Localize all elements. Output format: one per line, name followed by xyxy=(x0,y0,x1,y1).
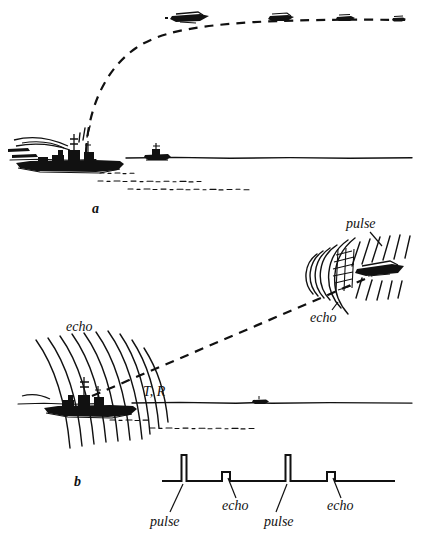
echo-wavefronts-aircraft xyxy=(306,238,355,314)
sea-texture-a xyxy=(98,173,249,190)
panel-b: echo pulse echo T, R b xyxy=(18,216,412,489)
radar-figure: a xyxy=(0,0,422,541)
distant-ship-a xyxy=(144,143,171,160)
shell-trajectory-a xyxy=(86,20,412,152)
panel-label-b: b xyxy=(74,474,81,489)
pulse-label-aircraft: pulse xyxy=(345,216,376,231)
distant-ship-b xyxy=(252,396,269,404)
trace-labels: pulseechopulseecho xyxy=(149,498,353,529)
warship-a xyxy=(8,126,124,173)
leader-pulse-0 xyxy=(170,484,183,512)
transmitter-receiver-label: T, R xyxy=(143,384,166,399)
trace-label-echo-3: echo xyxy=(327,498,353,513)
radar-time-base-trace: pulseechopulseecho xyxy=(149,455,395,529)
echo-label-aircraft: echo xyxy=(310,310,336,325)
trace-leader-lines xyxy=(170,478,341,512)
trace-label-pulse-2: pulse xyxy=(263,514,294,529)
trace-label-echo-1: echo xyxy=(222,498,248,513)
trace-polyline xyxy=(162,455,395,481)
panel-a: a xyxy=(8,12,412,216)
leader-pulse-2 xyxy=(276,484,287,512)
trace-label-pulse-0: pulse xyxy=(149,514,180,529)
sea-texture-b xyxy=(110,420,254,429)
panel-label-a: a xyxy=(92,201,99,216)
radar-beam-line-of-sight xyxy=(92,276,372,396)
horizon-line-b xyxy=(18,402,412,404)
aircraft-near-a xyxy=(165,12,209,23)
echo-label-ship: echo xyxy=(66,319,92,334)
